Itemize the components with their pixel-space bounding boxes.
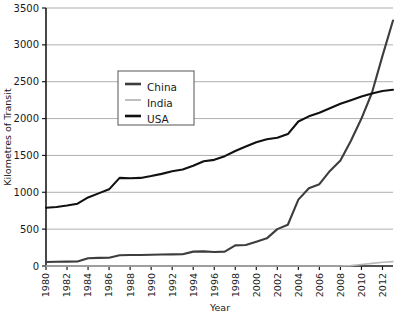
x-tick-label: 1994 — [188, 273, 199, 297]
y-tick-label: 2000 — [14, 113, 39, 124]
y-tick-label: 0 — [33, 261, 39, 272]
x-tick-label: 2010 — [356, 273, 367, 297]
x-tick-label: 2006 — [314, 273, 325, 297]
x-tick-label: 1980 — [40, 273, 51, 297]
legend-label-china: China — [147, 81, 177, 93]
x-tick-label: 1982 — [61, 273, 72, 297]
y-tick-label: 3000 — [14, 39, 39, 50]
y-axis-title: Kilometres of Transit — [2, 88, 13, 186]
x-tick-label: 2004 — [293, 273, 304, 297]
chart-legend[interactable]: ChinaIndiaUSA — [118, 71, 194, 125]
line-chart-figure: 0500100015002000250030003500 19801982198… — [0, 0, 402, 316]
chart-canvas: 0500100015002000250030003500 19801982198… — [0, 0, 402, 316]
legend-label-india: India — [147, 97, 173, 109]
y-tick-label: 500 — [20, 224, 39, 235]
x-tick-label: 2008 — [335, 273, 346, 297]
x-tick-label: 1984 — [82, 273, 93, 297]
y-tick-label: 2500 — [14, 76, 39, 87]
x-tick-label: 2000 — [251, 273, 262, 297]
x-axis-title: Year — [209, 302, 230, 313]
legend-label-usa: USA — [147, 113, 170, 125]
x-tick-label: 2002 — [272, 273, 283, 297]
x-tick-label: 1992 — [167, 273, 178, 297]
x-tick-label: 1996 — [209, 273, 220, 297]
y-tick-label: 1500 — [14, 150, 39, 161]
x-tick-label: 1998 — [230, 273, 241, 297]
x-tick-label: 1988 — [125, 273, 136, 297]
x-tick-label: 2012 — [377, 273, 388, 297]
x-tick-label: 1986 — [103, 273, 114, 297]
y-tick-label: 3500 — [14, 3, 39, 14]
x-tick-label: 1990 — [146, 273, 157, 297]
y-tick-label: 1000 — [14, 187, 39, 198]
